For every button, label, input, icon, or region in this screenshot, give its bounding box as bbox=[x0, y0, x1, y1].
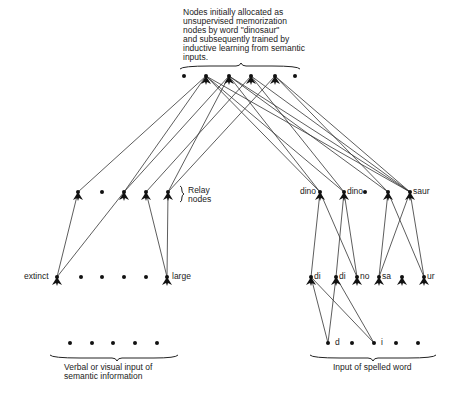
connection-line bbox=[275, 76, 388, 192]
connection-line bbox=[336, 277, 374, 343]
right_input-dot bbox=[372, 341, 376, 345]
left_row2-node-synapse bbox=[52, 277, 62, 286]
label-saur: saur bbox=[413, 187, 430, 196]
top-caption: Nodes initially allocated as unsupervise… bbox=[183, 8, 305, 62]
right_input-dot bbox=[394, 341, 398, 345]
label-large: large bbox=[172, 272, 191, 281]
connection-line bbox=[410, 192, 424, 277]
label-d: d bbox=[335, 338, 340, 347]
connection-line bbox=[320, 192, 357, 277]
top-brace bbox=[180, 63, 300, 69]
bottom-left-brace bbox=[50, 355, 178, 361]
connection-line bbox=[311, 277, 328, 343]
right_input-dot bbox=[350, 341, 354, 345]
label-di-1: di bbox=[314, 272, 321, 281]
connection-line bbox=[168, 76, 275, 192]
connection-line bbox=[311, 192, 320, 277]
right_input-dot bbox=[416, 341, 420, 345]
left_row2-dot bbox=[122, 275, 126, 279]
connection-line bbox=[206, 76, 320, 192]
connection-line bbox=[336, 192, 344, 277]
bottom-left-caption: Verbal or visual input of semantic infor… bbox=[64, 363, 152, 381]
label-di-2: di bbox=[339, 272, 346, 281]
connection-line bbox=[344, 192, 357, 277]
left_relay-node-synapse bbox=[73, 192, 83, 201]
caption-line: semantic information bbox=[64, 372, 152, 381]
connection-line bbox=[124, 76, 229, 192]
connection-lines bbox=[57, 76, 424, 343]
right_row1-dot bbox=[363, 190, 367, 194]
left_input-dot bbox=[133, 341, 137, 345]
left_input-dot bbox=[111, 341, 115, 345]
caption-line: inputs. bbox=[183, 53, 305, 62]
left_relay-node-synapse bbox=[141, 192, 151, 201]
connection-line bbox=[388, 192, 424, 277]
left_row2-node-synapse bbox=[162, 277, 172, 286]
label-i: i bbox=[381, 338, 383, 347]
connection-line bbox=[168, 76, 229, 192]
right_input-dot bbox=[326, 341, 330, 345]
bottom-right-brace bbox=[310, 355, 436, 361]
connection-line bbox=[275, 76, 410, 192]
top-dot bbox=[293, 74, 297, 78]
connection-line bbox=[328, 277, 336, 343]
left_relay-dot bbox=[100, 190, 104, 194]
left_input-dot bbox=[155, 341, 159, 345]
connection-line bbox=[124, 76, 206, 192]
label-sa: sa bbox=[382, 272, 391, 281]
left_row2-dot bbox=[100, 275, 104, 279]
relay-label-line: nodes bbox=[188, 195, 211, 204]
right_row2-node-synapse bbox=[397, 277, 407, 286]
label-extinct: extinct bbox=[24, 272, 49, 281]
relay-brace bbox=[180, 186, 184, 202]
label-ur: ur bbox=[427, 272, 435, 281]
connection-line bbox=[57, 192, 124, 277]
left_relay-node-synapse bbox=[163, 192, 173, 201]
connection-line bbox=[146, 192, 167, 277]
node-layer bbox=[52, 74, 429, 345]
left_input-dot bbox=[90, 341, 94, 345]
bottom-right-caption: Input of spelled word bbox=[333, 363, 411, 372]
connection-line bbox=[167, 192, 168, 277]
left_input-dot bbox=[68, 341, 72, 345]
connection-line bbox=[78, 76, 206, 192]
label-no: no bbox=[360, 272, 369, 281]
label-dino-2: dino bbox=[347, 187, 363, 196]
connection-line bbox=[311, 277, 374, 343]
connection-line bbox=[229, 76, 410, 192]
left_row2-dot bbox=[79, 275, 83, 279]
label-dino-1: dino bbox=[300, 187, 316, 196]
top-node-synapse bbox=[270, 76, 280, 85]
top-dot bbox=[182, 74, 186, 78]
connection-line bbox=[206, 76, 410, 192]
relay-nodes-label: Relay nodes bbox=[188, 186, 211, 204]
left_row2-dot bbox=[144, 275, 148, 279]
